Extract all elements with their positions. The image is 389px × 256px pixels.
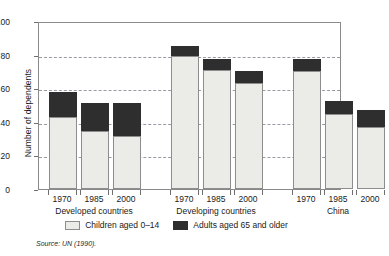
- legend-label-adults: Adults aged 65 and older: [193, 220, 288, 230]
- bar-segment-children: [203, 70, 231, 189]
- x-category-label-2000: 2000: [350, 194, 389, 204]
- bar-segment-children: [113, 136, 141, 189]
- legend-item-adults: Adults aged 65 and older: [173, 220, 288, 230]
- bar-segment-children: [81, 131, 109, 189]
- source-note: Source: UN (1990).: [36, 240, 96, 247]
- y-tick-label-60: 60: [0, 85, 10, 94]
- light-gray-swatch-icon: [65, 221, 80, 230]
- group-label-developed-countries: Developed countries: [34, 206, 154, 216]
- bar-segment-children: [171, 56, 199, 189]
- bar-segment-adults: [357, 110, 385, 127]
- plot-area: [38, 22, 341, 190]
- y-tick-label-20: 20: [0, 152, 10, 161]
- bar-segment-adults: [203, 59, 231, 70]
- bar-segment-adults: [81, 103, 109, 132]
- bar-segment-adults: [171, 46, 199, 56]
- bar-segment-adults: [235, 71, 263, 83]
- y-tick-label-0: 0: [0, 186, 10, 195]
- group-label-developing-countries: Developing countries: [156, 206, 276, 216]
- bar-segment-children: [235, 83, 263, 189]
- bar: [293, 59, 321, 189]
- x-category-label-2000: 2000: [106, 194, 146, 204]
- bar-segment-children: [357, 127, 385, 189]
- bar-segment-children: [293, 71, 321, 189]
- bar-segment-children: [49, 117, 77, 189]
- legend-label-children: Children aged 0–14: [85, 220, 159, 230]
- y-tick-label-40: 40: [0, 119, 10, 128]
- legend-item-children: Children aged 0–14: [65, 220, 159, 230]
- bar: [81, 102, 109, 189]
- dark-swatch-icon: [173, 221, 188, 230]
- bar: [325, 101, 353, 189]
- bar: [113, 102, 141, 189]
- y-tick-label-100: 100: [0, 18, 10, 27]
- bar: [357, 110, 385, 189]
- bar-segment-children: [325, 114, 353, 189]
- bar: [49, 92, 77, 189]
- x-category-label-2000: 2000: [228, 194, 268, 204]
- bar-segment-adults: [49, 92, 77, 117]
- bar: [235, 71, 263, 189]
- y-tick-label-80: 80: [0, 52, 10, 61]
- chart-legend: Children aged 0–14 Adults aged 65 and ol…: [0, 220, 353, 230]
- bar: [171, 46, 199, 189]
- y-axis-title: Number of dependents: [23, 33, 33, 193]
- bar-segment-adults: [325, 101, 353, 114]
- bar-segment-adults: [113, 103, 141, 137]
- group-label-china: China: [278, 206, 389, 216]
- y-tick-mark-0: [34, 190, 38, 191]
- bar-segment-adults: [293, 59, 321, 72]
- bar: [203, 59, 231, 189]
